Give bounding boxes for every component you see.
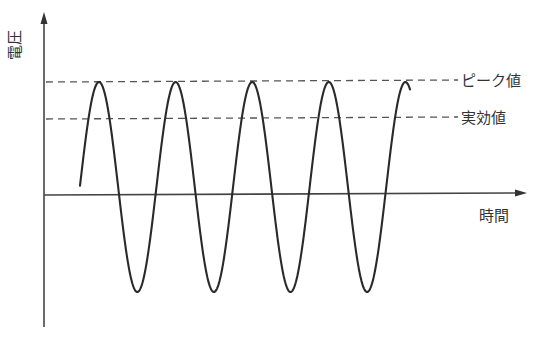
y-axis-arrow-icon	[41, 12, 48, 24]
voltage-sine-wave	[80, 82, 410, 292]
x-axis	[44, 193, 517, 195]
y-axis-label: 電圧	[6, 30, 24, 60]
sine-wave-diagram: 電圧 ピーク値 実効値 時間	[0, 0, 545, 344]
peak-value-label: ピーク値	[461, 72, 521, 90]
diagram-canvas: 電圧 ピーク値 実効値 時間	[0, 0, 545, 344]
x-axis-label: 時間	[479, 207, 509, 225]
y-axis-label-group: 電圧	[6, 30, 24, 60]
rms-value-label: 実効値	[461, 109, 506, 127]
rms-value-line	[46, 117, 458, 119]
x-axis-arrow-icon	[515, 190, 527, 197]
